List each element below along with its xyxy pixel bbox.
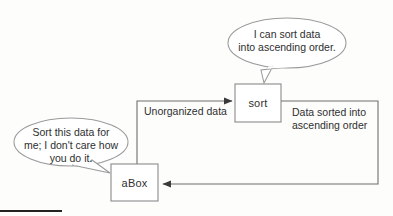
node-abox-box[interactable]: [111, 164, 158, 201]
diagram-canvas: I can sort data into ascending order. So…: [0, 0, 393, 216]
speech-bubble-sort-tail-mask: [268, 67, 287, 68]
edge-abox-to-sort-line: [137, 101, 232, 164]
speech-bubble-sort-ellipse: [228, 18, 346, 68]
speech-bubble-sort[interactable]: [228, 18, 346, 83]
edge-abox-to-sort: [137, 101, 232, 164]
speech-bubble-abox-ellipse: [14, 118, 128, 166]
diagram-graphics: [0, 0, 393, 216]
node-sort-box[interactable]: [235, 84, 281, 122]
bottom-rule-bar: [0, 210, 62, 212]
speech-bubble-sort-tail: [261, 66, 287, 83]
